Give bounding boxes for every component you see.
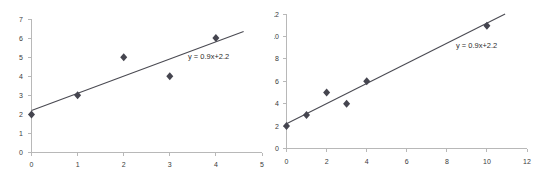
right-trend-line <box>287 14 506 124</box>
left-y-label-2: 2 <box>19 111 23 118</box>
right-y-label-12: 12 <box>274 11 279 18</box>
left-x-label-0: 0 <box>30 161 34 168</box>
left-equation-label: y = 0.9x+2.2 <box>188 52 229 61</box>
right-y-label-8: 8 <box>275 55 279 62</box>
right-x-label-6: 6 <box>405 158 409 165</box>
left-x-label-1: 1 <box>76 161 80 168</box>
left-data-point-0 <box>28 110 35 118</box>
right-x-label-8: 8 <box>445 158 449 165</box>
right-y-label-2: 2 <box>275 123 279 130</box>
right-data-point-0 <box>283 122 290 130</box>
left-x-label-5: 5 <box>260 161 264 168</box>
right-y-label-0: 0 <box>275 145 279 152</box>
left-y-label-0: 0 <box>19 149 23 156</box>
right-equation-label: y = 0.9x+2.2 <box>456 41 497 50</box>
right-y-label-4: 4 <box>275 100 279 107</box>
chart-panel-right: 0 2 4 6 8 10 12 0 2 4 6 8 10 12 <box>274 0 547 177</box>
right-data-point-3 <box>343 100 350 108</box>
right-chart-svg: 0 2 4 6 8 10 12 0 2 4 6 8 10 12 <box>274 0 547 177</box>
left-data-point-3 <box>166 72 173 80</box>
left-data-point-2 <box>120 53 127 61</box>
left-x-label-2: 2 <box>122 161 126 168</box>
right-x-label-2: 2 <box>325 158 329 165</box>
right-x-label-10: 10 <box>483 158 491 165</box>
left-y-label-6: 6 <box>19 35 23 42</box>
left-y-label-4: 4 <box>19 73 23 80</box>
right-y-label-6: 6 <box>275 78 279 85</box>
right-data-point-2 <box>323 89 330 97</box>
right-y-label-10: 10 <box>274 33 279 40</box>
left-y-label-1: 1 <box>19 130 23 137</box>
left-y-label-5: 5 <box>19 54 23 61</box>
left-x-label-4: 4 <box>214 161 218 168</box>
left-trend-line <box>32 31 244 110</box>
left-y-label-3: 3 <box>19 92 23 99</box>
right-x-label-12: 12 <box>523 158 531 165</box>
right-x-label-4: 4 <box>365 158 369 165</box>
chart-panel-left: 0 1 2 3 4 5 6 7 0 1 2 3 4 5 <box>0 0 274 177</box>
scatter-plot-figure: 0 1 2 3 4 5 6 7 0 1 2 3 4 5 <box>0 0 547 177</box>
right-data-point-5 <box>483 22 490 30</box>
left-chart-svg: 0 1 2 3 4 5 6 7 0 1 2 3 4 5 <box>0 0 274 177</box>
left-y-label-7: 7 <box>19 16 23 23</box>
right-x-label-0: 0 <box>285 158 289 165</box>
left-x-label-3: 3 <box>168 161 172 168</box>
